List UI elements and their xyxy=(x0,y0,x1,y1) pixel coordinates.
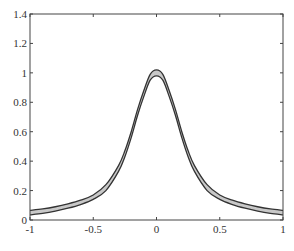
axes-frame xyxy=(30,14,283,220)
y-tick-label: 0.6 xyxy=(13,126,27,138)
y-tick-label: 1 xyxy=(22,67,28,79)
x-tick-label: 0.5 xyxy=(213,223,227,235)
y-tick-label: 0 xyxy=(22,214,28,226)
x-tick-label: 0 xyxy=(154,223,160,235)
y-axis: 00.20.40.60.811.21.4 xyxy=(13,8,283,226)
y-tick-label: 0.2 xyxy=(13,185,27,197)
y-tick-label: 1.2 xyxy=(13,37,27,49)
x-axis: -1-0.500.51 xyxy=(25,14,285,235)
y-tick-label: 1.4 xyxy=(13,8,27,20)
upper-bound-line xyxy=(30,70,283,211)
y-tick-label: 0.4 xyxy=(13,155,27,167)
x-tick-label: -0.5 xyxy=(85,223,103,235)
lower-bound-line xyxy=(30,76,283,215)
chart: -1-0.500.51 00.20.40.60.811.21.4 xyxy=(0,0,294,251)
confidence-band xyxy=(30,70,283,215)
x-tick-label: 1 xyxy=(280,223,286,235)
y-tick-label: 0.8 xyxy=(13,96,27,108)
plot-area xyxy=(30,70,283,215)
